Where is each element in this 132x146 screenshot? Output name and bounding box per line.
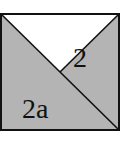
label-region-2a: 2a — [22, 93, 49, 124]
label-region-2: 2 — [73, 42, 87, 73]
square-diagram: 2 2a — [0, 0, 132, 146]
